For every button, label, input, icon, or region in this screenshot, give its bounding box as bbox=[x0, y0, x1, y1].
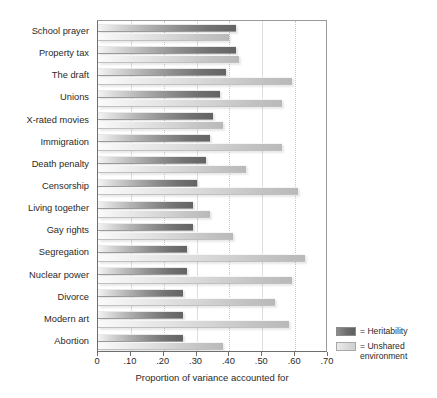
bar-unshared-environment bbox=[98, 165, 246, 173]
axis-tick-label: .30 bbox=[189, 356, 202, 366]
bar-heritability bbox=[98, 267, 187, 275]
bar-group bbox=[98, 110, 326, 132]
category-label: Gay rights bbox=[0, 225, 89, 235]
axis-tick-label: 0 bbox=[94, 356, 99, 366]
bar-group bbox=[98, 287, 326, 309]
bar-group bbox=[98, 87, 326, 109]
plot-area bbox=[97, 20, 327, 352]
bar-heritability bbox=[98, 68, 226, 76]
variance-bar-chart: School prayerProperty taxThe draftUnions… bbox=[0, 0, 437, 398]
bar-heritability bbox=[98, 24, 236, 32]
category-label: Nuclear power bbox=[0, 270, 89, 280]
bar-unshared-environment bbox=[98, 187, 298, 195]
category-label: Unions bbox=[0, 92, 89, 102]
bar-unshared-environment bbox=[98, 33, 229, 41]
bar-unshared-environment bbox=[98, 298, 275, 306]
chart-legend: = Heritability = Unshared environment bbox=[336, 326, 436, 366]
bar-heritability bbox=[98, 223, 193, 231]
bar-group bbox=[98, 309, 326, 331]
axis-tick-label: .60 bbox=[288, 356, 301, 366]
category-axis-labels: School prayerProperty taxThe draftUnions… bbox=[0, 20, 93, 352]
bar-unshared-environment bbox=[98, 232, 233, 240]
bar-unshared-environment bbox=[98, 210, 210, 218]
bar-group bbox=[98, 154, 326, 176]
bar-unshared-environment bbox=[98, 55, 239, 63]
bar-unshared-environment bbox=[98, 276, 292, 284]
bar-heritability bbox=[98, 112, 213, 120]
bar-group bbox=[98, 65, 326, 87]
bar-unshared-environment bbox=[98, 121, 223, 129]
bar-group bbox=[98, 43, 326, 65]
category-label: Death penalty bbox=[0, 159, 89, 169]
bar-heritability bbox=[98, 289, 183, 297]
axis-tick-label: .70 bbox=[321, 356, 334, 366]
category-label: Property tax bbox=[0, 48, 89, 58]
category-label: X-rated movies bbox=[0, 115, 89, 125]
legend-item-heritability: = Heritability bbox=[336, 326, 436, 336]
axis-tick-label: .50 bbox=[255, 356, 268, 366]
category-label: School prayer bbox=[0, 26, 89, 36]
category-label: Living together bbox=[0, 203, 89, 213]
value-axis-ticks: 0.10.20.30.40.50.60.70 bbox=[97, 352, 327, 358]
category-label: Modern art bbox=[0, 314, 89, 324]
bar-unshared-environment bbox=[98, 77, 292, 85]
bar-group bbox=[98, 132, 326, 154]
category-label: Immigration bbox=[0, 137, 89, 147]
bar-group bbox=[98, 242, 326, 264]
category-label: The draft bbox=[0, 70, 89, 80]
bar-heritability bbox=[98, 245, 187, 253]
bar-heritability bbox=[98, 201, 193, 209]
legend-swatch-light bbox=[336, 342, 356, 351]
bar-heritability bbox=[98, 46, 236, 54]
category-label: Segregation bbox=[0, 247, 89, 257]
axis-tick-label: .20 bbox=[156, 356, 169, 366]
bar-group bbox=[98, 264, 326, 286]
legend-item-unshared-environment: = Unshared environment bbox=[336, 341, 436, 361]
bar-heritability bbox=[98, 311, 183, 319]
axis-tick-label: .10 bbox=[123, 356, 136, 366]
bar-unshared-environment bbox=[98, 342, 223, 350]
x-axis-title: Proportion of variance accounted for bbox=[97, 372, 327, 383]
bar-group bbox=[98, 220, 326, 242]
bar-heritability bbox=[98, 90, 220, 98]
bar-unshared-environment bbox=[98, 254, 305, 262]
bar-group bbox=[98, 331, 326, 352]
bar-heritability bbox=[98, 156, 206, 164]
category-label: Censorship bbox=[0, 181, 89, 191]
legend-label-unshared-environment: = Unshared environment bbox=[360, 341, 430, 361]
category-label: Abortion bbox=[0, 336, 89, 346]
bar-heritability bbox=[98, 334, 183, 342]
bar-heritability bbox=[98, 134, 210, 142]
bar-heritability bbox=[98, 179, 197, 187]
bar-unshared-environment bbox=[98, 99, 282, 107]
legend-swatch-dark bbox=[336, 327, 356, 336]
bar-group bbox=[98, 198, 326, 220]
legend-label-heritability: = Heritability bbox=[360, 326, 408, 336]
bar-group bbox=[98, 21, 326, 43]
bar-group bbox=[98, 176, 326, 198]
axis-tick-label: .40 bbox=[222, 356, 235, 366]
bar-unshared-environment bbox=[98, 320, 289, 328]
category-label: Divorce bbox=[0, 292, 89, 302]
bar-unshared-environment bbox=[98, 143, 282, 151]
